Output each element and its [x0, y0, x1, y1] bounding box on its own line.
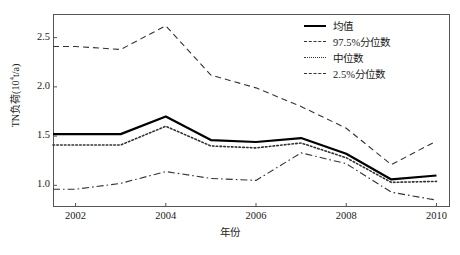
- chart-figure: 1.01.52.02.5 TN负荷(104t/a) 年份 均值97.5%分位数中…: [0, 0, 460, 255]
- legend-line-sample: [302, 36, 328, 48]
- y-axis-title: TN负荷(104t/a): [7, 26, 22, 166]
- legend-item: 2.5%分位数: [302, 66, 442, 81]
- chart-legend: 均值97.5%分位数中位数2.5%分位数: [302, 18, 442, 82]
- y-tick-label: 2.0: [20, 81, 50, 91]
- legend-label: 均值: [333, 18, 353, 33]
- y-tick-label: 1.0: [20, 179, 50, 189]
- legend-item: 97.5%分位数: [302, 34, 442, 49]
- x-axis-title: 年份: [0, 224, 460, 239]
- series-line: [53, 153, 436, 200]
- legend-label: 97.5%分位数: [333, 34, 390, 49]
- x-tick-label: 2002: [54, 210, 98, 221]
- legend-label: 中位数: [333, 50, 363, 65]
- x-tick-label: 2010: [414, 210, 458, 221]
- legend-item: 均值: [302, 18, 442, 33]
- legend-line-sample: [302, 52, 328, 64]
- y-axis-exponent: 4: [8, 77, 16, 81]
- legend-line-sample: [302, 68, 328, 80]
- y-tick-label: 2.5: [20, 32, 50, 42]
- x-tick-label: 2006: [234, 210, 278, 221]
- x-tick-label: 2004: [144, 210, 188, 221]
- x-tick-label: 2008: [324, 210, 368, 221]
- y-tick-label: 1.5: [20, 130, 50, 140]
- legend-label: 2.5%分位数: [333, 66, 385, 81]
- legend-item: 中位数: [302, 50, 442, 65]
- legend-line-sample: [302, 20, 328, 32]
